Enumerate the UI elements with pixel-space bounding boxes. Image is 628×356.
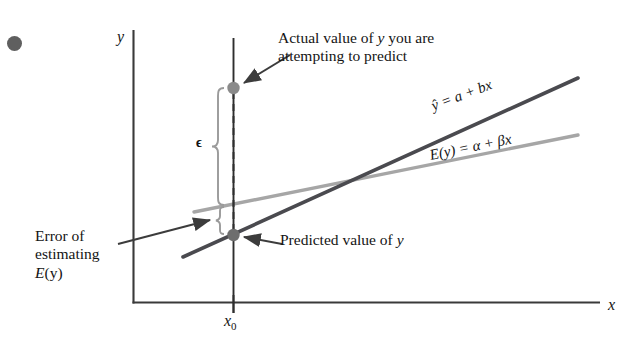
annotation-actual-value: Actual value of y you areattempting to p… (278, 29, 434, 66)
figure-canvas: y x x0 ϵ Actual value of y you areattemp… (0, 0, 628, 356)
annotation-error-line2: estimating (35, 245, 100, 262)
annotation-actual-value-line1-tail: you are (384, 29, 434, 46)
annotation-predicted-value-variable: y (397, 231, 404, 248)
annotation-predicted-value: Predicted value of y (280, 231, 404, 249)
predicted-value-point (227, 229, 239, 241)
estimation-error-brace (216, 207, 224, 234)
epsilon-label: ϵ (196, 135, 202, 152)
annotation-actual-value-line2: attempting to predict (278, 47, 407, 64)
actual-value-point (227, 82, 239, 94)
axis-label-y: y (117, 28, 124, 47)
population-regression-line (194, 135, 578, 212)
annotation-error-estimating: Error ofestimatingE(y) (35, 227, 100, 282)
predicted-value-leader-arrow (244, 237, 282, 244)
annotation-predicted-value-text: Predicted value of (280, 231, 397, 248)
error-estimating-leader-arrow (118, 220, 210, 244)
epsilon-brace (212, 88, 224, 205)
tick-label-x0-subscript: 0 (231, 320, 237, 332)
axis-label-x: x (608, 296, 615, 315)
axis-lines (133, 30, 601, 304)
annotation-error-line1: Error of (35, 227, 85, 244)
annotation-error-line3-tail: (y) (44, 264, 62, 281)
annotation-actual-value-line1-head: Actual value of (278, 29, 377, 46)
tick-label-x0: x0 (224, 312, 237, 333)
